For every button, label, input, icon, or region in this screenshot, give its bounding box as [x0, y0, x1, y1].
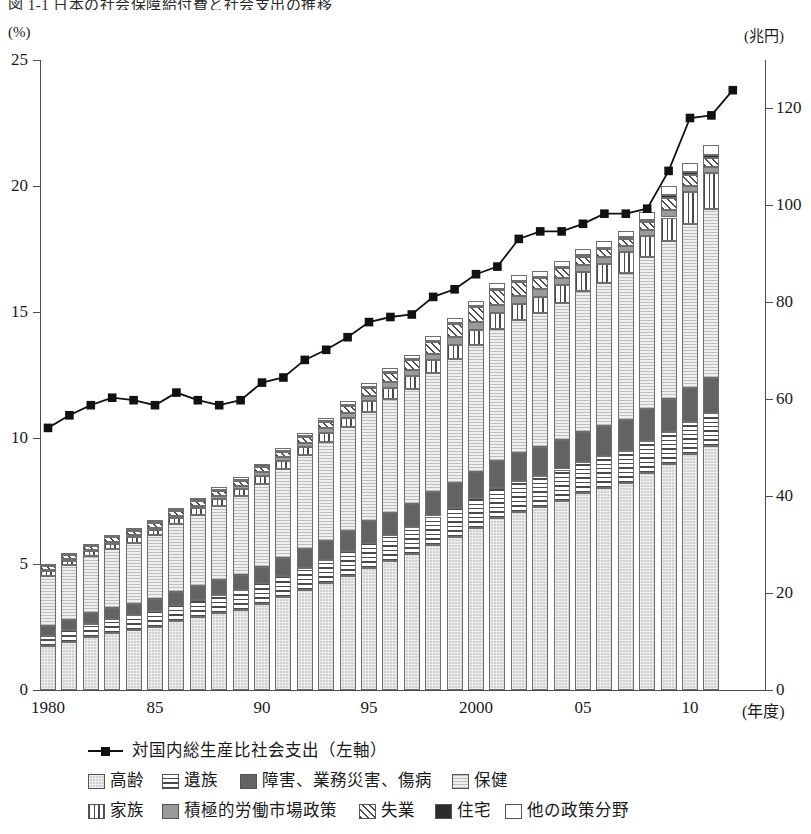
bar-1985[interactable] — [147, 60, 163, 690]
bar-segment-tano — [425, 336, 441, 341]
bar-segment-roudou — [40, 570, 56, 572]
bar-segment-kazoku — [361, 401, 377, 412]
bar-segment-izoku — [233, 590, 249, 609]
bar-1987[interactable] — [190, 60, 206, 690]
bar-1986[interactable] — [168, 60, 184, 690]
legend-item-izoku[interactable]: 遺族 — [162, 773, 218, 790]
right-tick-label: 40 — [776, 487, 793, 504]
bar-segment-kourei — [126, 630, 142, 690]
bar-1998[interactable] — [425, 60, 441, 690]
bar-1999[interactable] — [447, 60, 463, 690]
legend-item-kourei[interactable]: 高齢 — [88, 773, 144, 790]
bar-1990[interactable] — [254, 60, 270, 690]
legend-item-line[interactable]: 対国内総生産比社会支出（左軸） — [88, 743, 387, 760]
bar-segment-jutaku — [425, 341, 441, 343]
bar-segment-jutaku — [661, 195, 677, 197]
bar-segment-tano — [468, 301, 484, 306]
line-marker-icon — [88, 747, 123, 756]
bar-1997[interactable] — [404, 60, 420, 690]
x-axis-unit: (年度) — [742, 698, 785, 722]
bar-segment-roudou — [340, 413, 356, 418]
bar-1980[interactable] — [40, 60, 56, 690]
bar-segment-izoku — [275, 576, 291, 597]
legend-swatch-jutaku — [435, 804, 452, 819]
bar-1983[interactable] — [104, 60, 120, 690]
legend-item-kazoku[interactable]: 家族 — [88, 803, 144, 820]
legend-label-shitsugyo: 失業 — [381, 803, 415, 820]
bar-1991[interactable] — [275, 60, 291, 690]
legend-item-roudou[interactable]: 積極的労働市場政策 — [162, 803, 337, 820]
bar-segment-kazoku — [104, 544, 120, 549]
legend-swatch-tano — [505, 804, 522, 819]
bar-segment-shogai — [703, 378, 719, 413]
bar-segment-jutaku — [318, 421, 334, 423]
bar-2007[interactable] — [618, 60, 634, 690]
legend-item-jutaku[interactable]: 住宅 — [435, 803, 491, 820]
bar-2002[interactable] — [511, 60, 527, 690]
legend-item-shitsugyo[interactable]: 失業 — [359, 803, 415, 820]
bar-segment-kourei — [83, 637, 99, 690]
right-tick-label: 120 — [776, 99, 802, 116]
bar-segment-kourei — [489, 518, 505, 690]
bar-segment-roudou — [147, 528, 163, 530]
bar-1994[interactable] — [340, 60, 356, 690]
bar-segment-kourei — [532, 507, 548, 690]
bar-2004[interactable] — [554, 60, 570, 690]
bar-1992[interactable] — [297, 60, 313, 690]
bar-segment-kazoku — [340, 418, 356, 428]
bar-1995[interactable] — [361, 60, 377, 690]
bar-segment-izoku — [190, 600, 206, 617]
left-tick-label: 10 — [0, 429, 28, 446]
bar-segment-hoken — [382, 399, 398, 512]
bar-segment-kazoku — [211, 499, 227, 506]
bar-segment-shogai — [661, 399, 677, 432]
bar-1996[interactable] — [382, 60, 398, 690]
bar-segment-hoken — [61, 565, 77, 619]
bar-segment-kazoku — [596, 264, 612, 283]
bar-2003[interactable] — [532, 60, 548, 690]
legend-label-shogai: 障害、業務災害、傷病 — [262, 773, 432, 790]
bar-2000[interactable] — [468, 60, 484, 690]
bar-segment-roudou — [233, 486, 249, 489]
bar-segment-kourei — [340, 576, 356, 690]
bar-segment-hoken — [489, 329, 505, 461]
bar-2006[interactable] — [596, 60, 612, 690]
bar-segment-kazoku — [575, 272, 591, 290]
bar-1982[interactable] — [83, 60, 99, 690]
bar-2010[interactable] — [682, 60, 698, 690]
bar-2009[interactable] — [661, 60, 677, 690]
bar-segment-shitsugyo — [703, 158, 719, 167]
bar-segment-jutaku — [254, 466, 270, 468]
bar-1993[interactable] — [318, 60, 334, 690]
bar-2005[interactable] — [575, 60, 591, 690]
bar-segment-roudou — [532, 289, 548, 297]
bar-1984[interactable] — [126, 60, 142, 690]
bar-segment-tano — [104, 535, 120, 537]
legend-label-tano: 他の政策分野 — [527, 803, 629, 820]
bar-2001[interactable] — [489, 60, 505, 690]
legend-label-izoku: 遺族 — [184, 773, 218, 790]
bar-1989[interactable] — [233, 60, 249, 690]
bar-segment-tano — [575, 249, 591, 255]
bar-segment-kourei — [618, 483, 634, 690]
legend-swatch-hoken — [452, 774, 469, 789]
bar-segment-shogai — [382, 513, 398, 535]
left-tick-label: 25 — [0, 51, 28, 68]
legend-item-tano[interactable]: 他の政策分野 — [505, 803, 629, 820]
bar-segment-kourei — [447, 537, 463, 690]
bar-1988[interactable] — [211, 60, 227, 690]
bar-2011[interactable] — [703, 60, 719, 690]
bar-2008[interactable] — [639, 60, 655, 690]
bar-segment-kourei — [639, 473, 655, 690]
bar-segment-kourei — [596, 488, 612, 690]
bar-segment-shogai — [361, 521, 377, 542]
legend-item-shogai[interactable]: 障害、業務災害、傷病 — [240, 773, 432, 790]
right-tick-mark — [766, 399, 773, 400]
bar-segment-roudou — [682, 186, 698, 193]
bar-segment-izoku — [340, 551, 356, 575]
bar-segment-shogai — [682, 388, 698, 422]
bar-segment-shogai — [190, 586, 206, 600]
bar-1981[interactable] — [61, 60, 77, 690]
legend-item-hoken[interactable]: 保健 — [452, 773, 508, 790]
bar-segment-hoken — [447, 359, 463, 483]
